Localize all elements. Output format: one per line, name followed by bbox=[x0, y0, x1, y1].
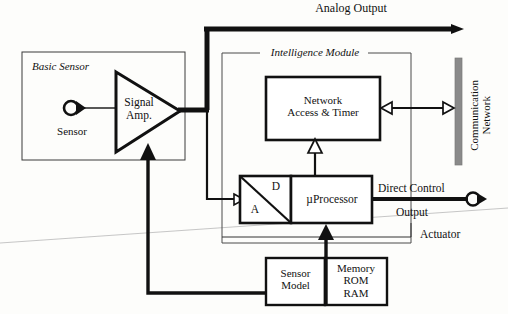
basic-sensor-label: Basic Sensor bbox=[32, 60, 122, 72]
amplifier-to-ad-converter-line bbox=[207, 110, 244, 205]
memory-label: Memory ROM RAM bbox=[326, 262, 386, 299]
diagram-canvas: Analog Output Basic Sensor Sensor Signal… bbox=[0, 0, 508, 314]
analog-output-label: Analog Output bbox=[291, 2, 411, 15]
sensor-label: Sensor bbox=[36, 125, 108, 137]
network-access-timer-label: Network Access & Timer bbox=[267, 94, 379, 119]
microprocessor-to-network-block-link bbox=[308, 139, 322, 175]
sensor-symbol bbox=[64, 101, 86, 115]
microprocessor-feedback-loop bbox=[222, 223, 411, 237]
actuator-label: Actuator bbox=[420, 228, 486, 241]
converter-a-label: A bbox=[247, 203, 263, 216]
signal-amp-label: Signal Amp. bbox=[113, 96, 165, 122]
converter-d-label: D bbox=[268, 180, 284, 193]
network-block-to-bus-link bbox=[381, 102, 454, 114]
microprocessor-label: µProcessor bbox=[292, 193, 372, 206]
communication-network-label: Communication Network bbox=[468, 55, 493, 175]
output-label: Output bbox=[396, 206, 456, 219]
diagram-vector-layer bbox=[0, 0, 508, 314]
sensor-model-label: Sensor Model bbox=[267, 267, 324, 292]
direct-control-label: Direct Control bbox=[378, 182, 478, 195]
communication-network-bus bbox=[455, 58, 462, 165]
intelligence-module-label: Intelligence Module bbox=[263, 46, 367, 58]
